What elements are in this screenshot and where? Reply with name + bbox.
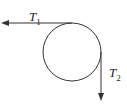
diagram-graphics	[0, 0, 127, 110]
label-t1-sub: 1	[36, 17, 41, 27]
label-t2-sub: 2	[116, 73, 121, 83]
pulley-diagram: T1 T2	[0, 0, 127, 110]
label-t1: T1	[29, 10, 41, 27]
arrow-down-icon	[98, 93, 104, 101]
arrow-left-icon	[1, 20, 9, 26]
pulley-circle	[43, 23, 101, 81]
label-t2: T2	[109, 66, 121, 83]
